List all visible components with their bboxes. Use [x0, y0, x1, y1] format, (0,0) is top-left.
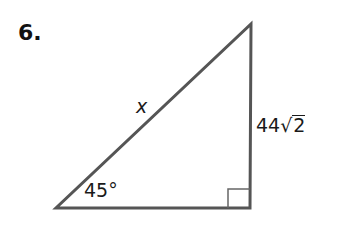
radical-sign-icon: √: [280, 114, 292, 136]
hypotenuse-label: x: [136, 95, 147, 117]
leg-label: 44√2: [256, 114, 305, 136]
leg-radicand: 2: [292, 115, 305, 135]
right-triangle-diagram: [0, 0, 338, 226]
leg-coefficient: 44: [256, 114, 280, 136]
right-angle-marker-icon: [228, 189, 250, 208]
angle-label: 45°: [84, 179, 118, 201]
